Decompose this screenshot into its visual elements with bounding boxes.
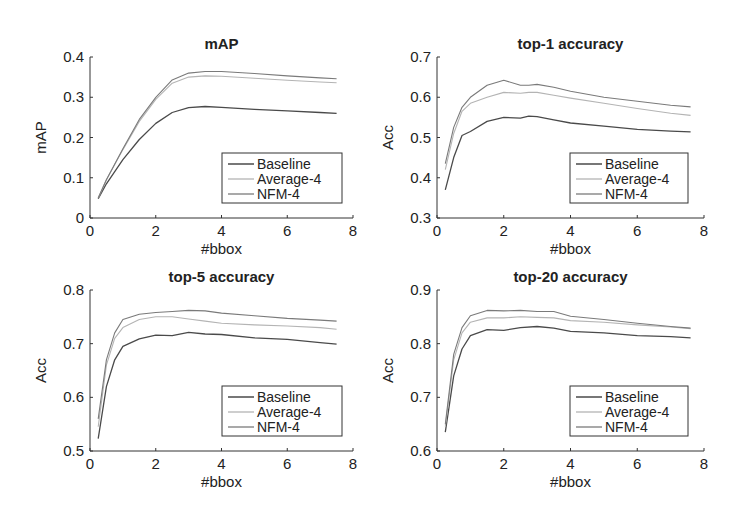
x-tick-label: 2 [500,455,508,472]
x-tick-label: 8 [349,222,357,239]
x-axis-label: #bbox [201,473,242,490]
y-tick-label: 0.3 [63,88,84,105]
y-tick-label: 0.8 [410,335,431,352]
y-tick-label: 0.7 [63,335,84,352]
y-tick-label: 0.8 [63,281,84,298]
x-tick-label: 4 [566,222,574,239]
y-tick-label: 0.7 [410,388,431,405]
x-tick-label: 2 [152,222,160,239]
legend: BaselineAverage-4NFM-4 [222,386,342,436]
x-tick-label: 4 [566,455,574,472]
y-tick-label: 0.4 [410,169,431,186]
y-axis-label: Acc [32,358,49,384]
x-tick-label: 0 [86,222,94,239]
legend-label: Average-4 [257,404,322,420]
x-tick-label: 6 [633,455,641,472]
chart-title: top-5 accuracy [169,268,276,285]
x-tick-label: 0 [433,222,441,239]
x-tick-label: 6 [633,222,641,239]
x-tick-label: 8 [349,455,357,472]
x-axis-label: #bbox [201,240,242,257]
y-axis-label: Acc [379,358,396,384]
y-tick-label: 0.5 [63,442,84,459]
y-tick-label: 0.6 [63,388,84,405]
y-tick-label: 0.2 [63,129,84,146]
y-tick-label: 0.6 [410,442,431,459]
legend-label: NFM-4 [605,186,648,202]
x-tick-label: 8 [700,222,708,239]
x-tick-label: 6 [283,222,291,239]
chart-title: top-1 accuracy [518,35,625,52]
y-axis-label: mAP [32,121,49,154]
x-tick-label: 0 [433,455,441,472]
y-tick-label: 0.6 [410,88,431,105]
legend-label: Average-4 [605,404,670,420]
x-tick-label: 2 [500,222,508,239]
legend: BaselineAverage-4NFM-4 [570,153,688,203]
y-tick-label: 0.4 [63,48,84,65]
y-tick-label: 0.7 [410,48,431,65]
subplot-1: mAP0246800.10.20.30.4#bboxmAPBaselineAve… [32,35,357,257]
x-tick-label: 4 [217,222,225,239]
y-tick-label: 0.9 [410,281,431,298]
legend-label: Baseline [257,389,311,405]
subplot-2: top-1 accuracy024680.30.40.50.60.7#bboxA… [379,35,708,257]
legend-label: Average-4 [257,171,322,187]
legend-label: NFM-4 [605,419,648,435]
y-tick-label: 0.3 [410,209,431,226]
x-tick-label: 0 [86,455,94,472]
figure: mAP0246800.10.20.30.4#bboxmAPBaselineAve… [0,0,744,519]
chart-title: top-20 accuracy [513,268,628,285]
legend-label: NFM-4 [257,186,300,202]
x-tick-label: 8 [700,455,708,472]
legend-label: Baseline [605,389,659,405]
chart-title: mAP [204,35,238,52]
chart-canvas: mAP0246800.10.20.30.4#bboxmAPBaselineAve… [0,0,744,519]
legend-label: Baseline [257,156,311,172]
legend-label: Baseline [605,156,659,172]
y-axis-label: Acc [379,125,396,151]
y-tick-label: 0 [76,209,84,226]
x-axis-label: #bbox [550,240,591,257]
y-tick-label: 0.1 [63,169,84,186]
y-tick-label: 0.5 [410,129,431,146]
x-axis-label: #bbox [550,473,591,490]
x-tick-label: 4 [217,455,225,472]
legend-label: NFM-4 [257,419,300,435]
subplot-3: top-5 accuracy024680.50.60.70.8#bboxAccB… [32,268,357,490]
x-tick-label: 6 [283,455,291,472]
legend: BaselineAverage-4NFM-4 [570,386,688,436]
legend: BaselineAverage-4NFM-4 [222,153,342,203]
x-tick-label: 2 [152,455,160,472]
legend-label: Average-4 [605,171,670,187]
subplot-4: top-20 accuracy024680.60.70.80.9#bboxAcc… [379,268,708,490]
